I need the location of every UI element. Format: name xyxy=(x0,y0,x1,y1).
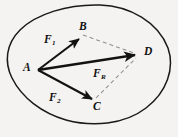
vector-label-f2-symbol: F xyxy=(49,91,57,103)
force-parallelogram-figure: F1 F2 FR A B C D xyxy=(0,0,178,137)
vector-label-fr-symbol: F xyxy=(93,67,101,79)
vector-label-f2: F2 xyxy=(49,92,61,105)
vector-label-fr-subscript: R xyxy=(101,73,106,81)
point-label-c: C xyxy=(93,101,101,113)
vector-label-f1-subscript: 1 xyxy=(52,39,56,47)
point-label-b: B xyxy=(79,21,87,33)
vector-label-f2-subscript: 2 xyxy=(57,97,61,105)
vector-fr-arrow xyxy=(38,55,135,70)
point-label-a: A xyxy=(23,62,31,74)
vector-f2-arrow xyxy=(38,70,92,99)
construction-line-bd xyxy=(83,35,134,53)
vector-label-fr: FR xyxy=(93,68,106,81)
vector-label-f1-symbol: F xyxy=(44,33,52,45)
body-outline-path xyxy=(7,5,170,124)
point-label-d: D xyxy=(144,46,152,58)
vector-label-f1: F1 xyxy=(44,34,56,47)
